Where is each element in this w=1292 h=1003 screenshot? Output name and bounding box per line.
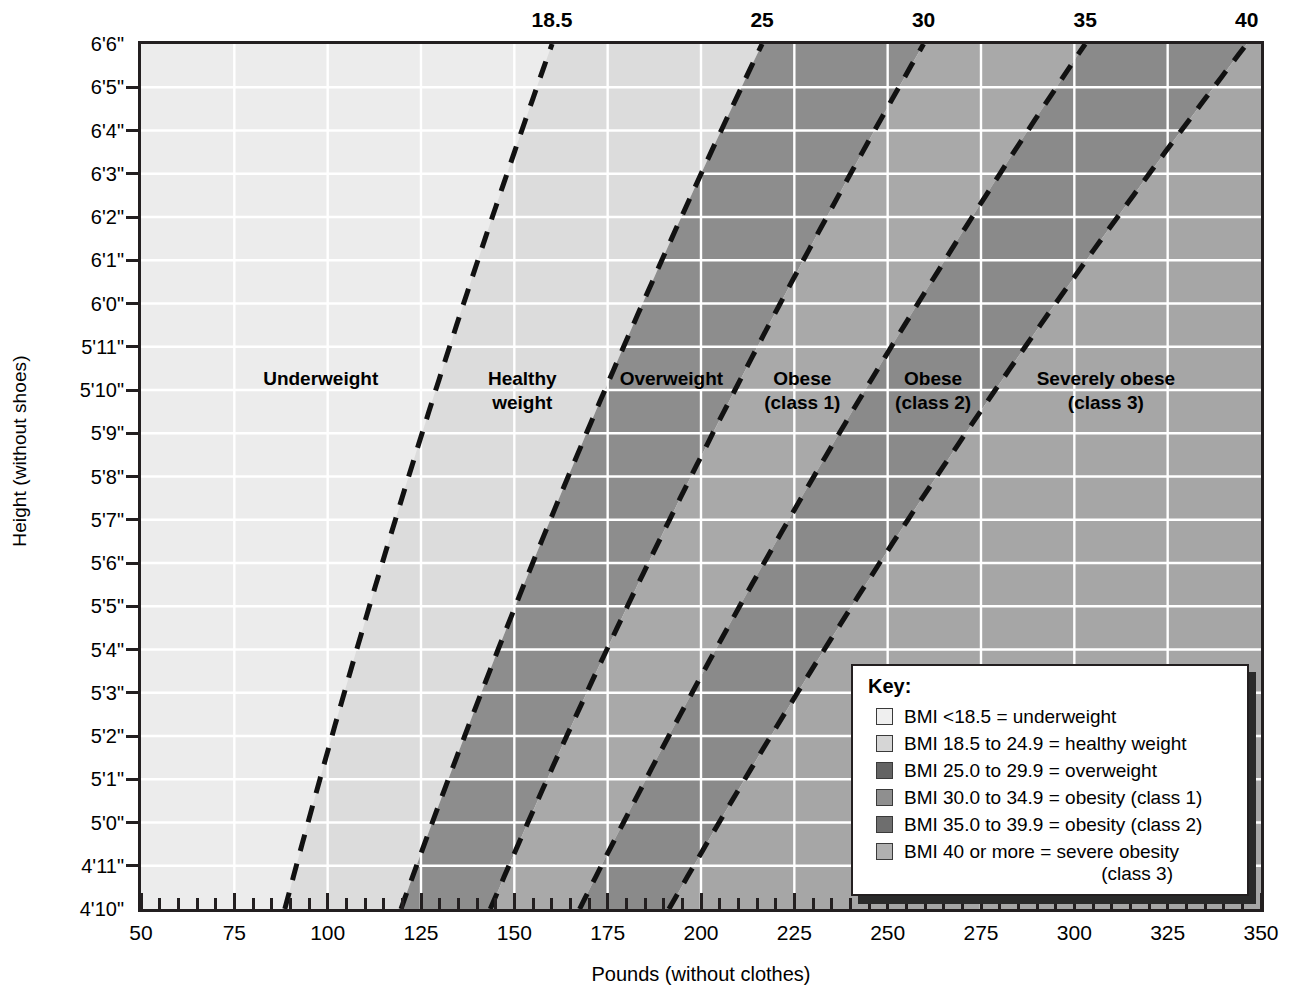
x-tick-label: 325 — [1150, 921, 1185, 945]
x-axis-title: Pounds (without clothes) — [138, 963, 1264, 986]
x-tick-mark-minor — [569, 898, 572, 909]
x-tick-mark-minor — [308, 898, 311, 909]
key-entry-label: BMI 25.0 to 29.9 = overweight — [904, 760, 1157, 782]
x-tick-mark-minor — [196, 898, 199, 909]
x-tick-label: 300 — [1057, 921, 1092, 945]
key-entries: BMI <18.5 = underweightBMI 18.5 to 24.9 … — [866, 703, 1235, 865]
x-tick-mark-minor — [289, 898, 292, 909]
x-tick-mark-minor — [252, 898, 255, 909]
key-entry: BMI 30.0 to 34.9 = obesity (class 1) — [866, 784, 1235, 811]
x-tick-mark-major — [606, 893, 609, 909]
key-entry: BMI 35.0 to 39.9 = obesity (class 2) — [866, 811, 1235, 838]
x-tick-mark-minor — [849, 898, 852, 909]
x-tick-mark-minor — [681, 898, 684, 909]
key-entry-label: BMI 18.5 to 24.9 = healthy weight — [904, 733, 1187, 755]
x-tick-mark-minor — [532, 898, 535, 909]
x-tick-mark-major — [326, 893, 329, 909]
bmi-chart: Height (without shoes) 4'10"4'11"5'0"5'1… — [0, 0, 1292, 1003]
key-entry-label: BMI 30.0 to 34.9 = obesity (class 1) — [904, 787, 1202, 809]
key-swatch — [876, 843, 893, 860]
key-entry: BMI 25.0 to 29.9 = overweight — [866, 757, 1235, 784]
x-tick-mark-minor — [774, 898, 777, 909]
key-entry: BMI <18.5 = underweight — [866, 703, 1235, 730]
x-tick-mark-minor — [438, 898, 441, 909]
x-tick-mark-minor — [158, 898, 161, 909]
x-tick-label: 75 — [223, 921, 246, 945]
x-tick-mark-minor — [644, 898, 647, 909]
x-tick-mark-major — [233, 893, 236, 909]
x-tick-label: 200 — [683, 921, 718, 945]
x-tick-label: 150 — [497, 921, 532, 945]
x-tick-mark-minor — [737, 898, 740, 909]
x-tick-mark-major — [513, 893, 516, 909]
key-box: Key: BMI <18.5 = underweightBMI 18.5 to … — [851, 664, 1249, 896]
x-tick-mark-minor — [812, 898, 815, 909]
key-continuation: (class 3) — [866, 863, 1235, 885]
key-swatch — [876, 816, 893, 833]
x-tick-mark-major — [420, 893, 423, 909]
x-tick-mark-minor — [830, 898, 833, 909]
x-tick-mark-minor — [494, 898, 497, 909]
x-tick-mark-minor — [625, 898, 628, 909]
x-tick-mark-minor — [401, 898, 404, 909]
key-title: Key: — [868, 675, 1235, 698]
x-tick-label: 350 — [1243, 921, 1278, 945]
x-tick-label: 225 — [777, 921, 812, 945]
x-tick-mark-minor — [214, 898, 217, 909]
key-swatch — [876, 789, 893, 806]
x-tick-mark-minor — [345, 898, 348, 909]
key-entry: BMI 18.5 to 24.9 = healthy weight — [866, 730, 1235, 757]
x-tick-mark-minor — [270, 898, 273, 909]
x-tick-mark-minor — [476, 898, 479, 909]
key-entry-label: BMI 35.0 to 39.9 = obesity (class 2) — [904, 814, 1202, 836]
key-swatch — [876, 762, 893, 779]
x-tick-mark-minor — [662, 898, 665, 909]
x-tick-mark-major — [140, 893, 143, 909]
x-tick-label: 275 — [963, 921, 998, 945]
key-swatch — [876, 708, 893, 725]
x-tick-label: 125 — [403, 921, 438, 945]
key-entry: BMI 40 or more = severe obesity — [866, 838, 1235, 865]
key-entry-label: BMI <18.5 = underweight — [904, 706, 1116, 728]
key-entry-label: BMI 40 or more = severe obesity — [904, 841, 1179, 863]
x-tick-label: 250 — [870, 921, 905, 945]
key-swatch — [876, 735, 893, 752]
x-tick-mark-minor — [588, 898, 591, 909]
x-tick-mark-minor — [550, 898, 553, 909]
x-tick-mark-minor — [382, 898, 385, 909]
x-tick-mark-minor — [364, 898, 367, 909]
x-tick-label: 100 — [310, 921, 345, 945]
x-tick-label: 175 — [590, 921, 625, 945]
x-tick-mark-minor — [718, 898, 721, 909]
x-tick-mark-major — [1260, 893, 1263, 909]
x-tick-label: 50 — [129, 921, 152, 945]
x-tick-mark-major — [700, 893, 703, 909]
x-tick-mark-minor — [756, 898, 759, 909]
x-tick-mark-minor — [177, 898, 180, 909]
x-tick-mark-major — [793, 893, 796, 909]
x-tick-mark-minor — [457, 898, 460, 909]
